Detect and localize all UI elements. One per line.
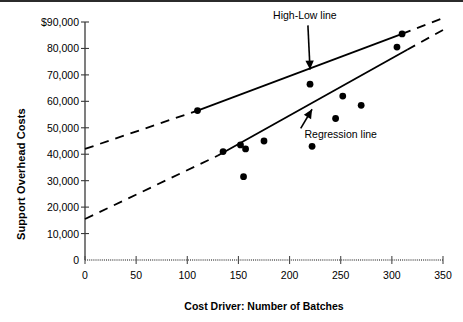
y-tick-label: 50,000 (47, 122, 79, 134)
data-point (339, 93, 346, 100)
x-tick-labels: 050100150200250300350 (82, 269, 452, 281)
trend-line-dashed (85, 111, 198, 149)
data-point (261, 138, 268, 145)
y-tick-label: $90,000 (41, 16, 79, 28)
y-tick-label: 0 (73, 254, 79, 266)
trend-line-dashed (85, 156, 218, 219)
data-point (358, 102, 365, 109)
trend-line-dashed (402, 18, 443, 34)
x-tick-label: 100 (179, 269, 197, 281)
y-axis-title: Support Overhead Costs (15, 108, 27, 240)
trend-line-solid (198, 34, 403, 111)
y-tick-labels: 010,00020,00030,00040,00050,00060,00070,… (41, 16, 79, 266)
annotation-label: Regression line (305, 128, 378, 140)
data-point (309, 143, 316, 150)
x-tick-label: 200 (281, 269, 299, 281)
chart-figure: Support Overhead Costs 010,00020,00030,0… (0, 0, 463, 322)
y-tick-label: 80,000 (47, 42, 79, 54)
x-tick-label: 300 (383, 269, 401, 281)
x-axis-title: Cost Driver: Number of Batches (184, 300, 343, 312)
x-tick-label: 350 (434, 269, 452, 281)
x-tick-label: 50 (130, 269, 142, 281)
data-point (194, 107, 201, 114)
x-tick-label: 250 (332, 269, 350, 281)
y-tick-label: 30,000 (47, 175, 79, 187)
x-tick-label: 0 (82, 269, 88, 281)
data-point (307, 81, 314, 88)
data-point (242, 146, 249, 153)
data-point (332, 115, 339, 122)
data-point (240, 173, 247, 180)
trend-lines (85, 18, 443, 219)
y-tick-label: 10,000 (47, 228, 79, 240)
y-tick-label: 60,000 (47, 95, 79, 107)
x-tick-label: 150 (230, 269, 248, 281)
y-tick-label: 40,000 (47, 148, 79, 160)
scatter-plot: Support Overhead Costs 010,00020,00030,0… (0, 2, 463, 322)
data-point (399, 31, 406, 38)
y-tick-label: 20,000 (47, 201, 79, 213)
trend-line-dashed (407, 30, 443, 50)
annotation-label: High-Low line (273, 9, 337, 21)
data-point (394, 44, 401, 51)
data-points (194, 31, 405, 181)
y-tick-label: 70,000 (47, 69, 79, 81)
data-point (220, 148, 227, 155)
